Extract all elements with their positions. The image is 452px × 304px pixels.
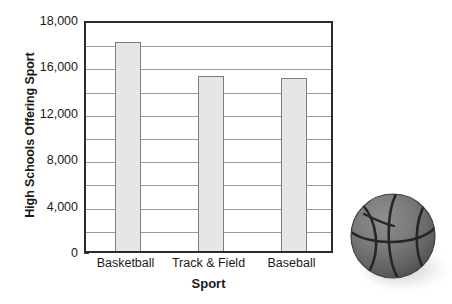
x-axis-tick-labels: BasketballTrack & FieldBaseball: [84, 256, 333, 274]
y-tick-label: 12,000: [4, 107, 78, 121]
x-tick-label: Baseball: [268, 256, 316, 270]
y-tick-label: 4,000: [4, 200, 78, 214]
plot-area: [84, 21, 333, 253]
basketball-graphic: [348, 188, 448, 296]
bar-baseball: [281, 78, 307, 251]
bar-track-field: [198, 76, 224, 251]
x-tick-label: Basketball: [97, 256, 155, 270]
y-axis-tick-labels: 04,0008,00012,00016,00018,000: [0, 21, 78, 253]
y-tick-label: 18,000: [4, 14, 78, 28]
y-tick-label: 8,000: [4, 153, 78, 167]
bar-basketball: [115, 42, 141, 251]
plot-inner: [86, 23, 331, 251]
x-tick-label: Track & Field: [172, 256, 245, 270]
bar-chart-figure: High Schools Offering Sport 04,0008,0001…: [0, 0, 452, 304]
y-tick-mark: [84, 253, 89, 254]
y-tick-label: 16,000: [4, 60, 78, 74]
y-tick-label: 0: [4, 246, 78, 260]
x-axis-title: Sport: [84, 276, 333, 291]
basketball-icon: [348, 188, 448, 296]
